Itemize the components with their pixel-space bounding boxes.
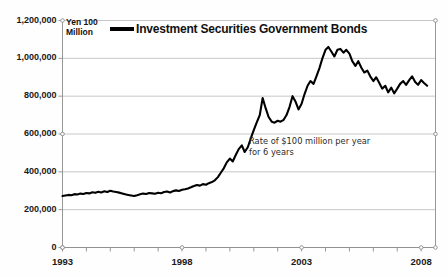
line-chart (0, 0, 447, 278)
x-axis-tick-label: 1993 (43, 256, 83, 267)
x-axis-tick-label: 2008 (401, 256, 441, 267)
y-axis-unit-label: Yen 100 Million (66, 17, 98, 37)
y-axis-tick-label: 800,000 (24, 90, 57, 100)
y-axis-tick-label: 1,000,000 (16, 52, 56, 62)
y-axis-tick-label: 200,000 (24, 204, 57, 214)
y-axis-tick-label: 600,000 (24, 128, 57, 138)
legend-line-swatch (110, 27, 134, 31)
y-axis-tick-label: 0 (51, 242, 56, 252)
chart-annotation: Rate of $100 million per year for 6 year… (249, 136, 370, 158)
chart-container: Yen 100 Million Investment Securities Go… (0, 0, 447, 278)
y-axis-tick-label: 400,000 (24, 166, 57, 176)
x-axis-tick-label: 2003 (282, 256, 322, 267)
x-axis-tick-label: 1998 (162, 256, 202, 267)
y-axis-tick-label: 1,200,000 (16, 15, 56, 25)
chart-legend: Investment Securities Government Bonds (110, 22, 367, 36)
legend-label: Investment Securities Government Bonds (136, 22, 367, 36)
